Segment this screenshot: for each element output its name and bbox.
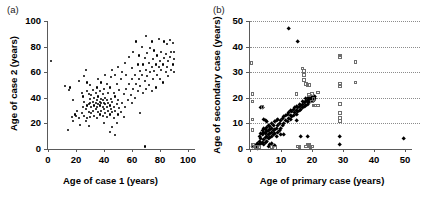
data-point	[75, 115, 77, 117]
data-point	[121, 102, 123, 104]
data-point	[86, 81, 88, 83]
y-tick	[44, 123, 47, 124]
x-tick-label: 0	[33, 155, 63, 165]
data-point	[152, 78, 154, 80]
data-point	[116, 122, 118, 124]
data-point	[106, 106, 108, 108]
x-tick-label: 40	[359, 155, 389, 165]
data-point	[354, 60, 358, 64]
y-tick-label: 40	[214, 42, 243, 52]
y-tick	[246, 47, 249, 48]
x-tick	[250, 149, 251, 152]
data-point	[137, 63, 139, 65]
data-point	[124, 106, 126, 108]
data-point	[159, 60, 161, 62]
panel-a-x-axis-line	[47, 149, 195, 150]
data-point	[120, 78, 122, 80]
data-point	[109, 86, 111, 88]
y-tick-label: 50	[214, 16, 243, 26]
data-point	[89, 102, 91, 104]
data-point	[261, 105, 265, 109]
data-point	[114, 74, 116, 76]
data-point	[82, 95, 84, 97]
data-point	[305, 134, 310, 139]
data-point	[169, 56, 171, 58]
y-tick	[246, 72, 249, 73]
data-point	[109, 104, 111, 106]
data-point	[135, 40, 137, 42]
data-point	[338, 102, 342, 106]
data-point	[160, 51, 162, 53]
y-tick-label: 20	[12, 118, 41, 128]
data-point	[159, 78, 161, 80]
data-point	[132, 88, 134, 90]
data-point	[95, 108, 97, 110]
data-point	[116, 103, 118, 105]
data-point	[81, 92, 83, 94]
panel-a: (a) Age of case 2 (years) 020406080100 0…	[0, 0, 205, 206]
panel-a-plot-area	[48, 21, 188, 149]
x-tick	[48, 149, 49, 152]
data-point	[109, 113, 111, 115]
data-point	[89, 116, 91, 118]
data-point	[338, 84, 342, 88]
data-point	[165, 71, 167, 73]
data-point	[85, 69, 87, 71]
y-tick-label: 20	[214, 93, 243, 103]
data-point	[149, 71, 151, 73]
data-point	[146, 75, 148, 77]
data-point	[69, 86, 71, 88]
data-point	[337, 143, 342, 148]
data-point	[148, 62, 150, 64]
data-point	[135, 83, 137, 85]
x-tick	[312, 149, 313, 152]
data-point	[125, 74, 127, 76]
data-point	[109, 131, 111, 133]
data-point	[316, 104, 320, 108]
data-point	[81, 112, 83, 114]
x-tick	[405, 149, 406, 152]
data-point	[82, 106, 84, 108]
data-point	[71, 116, 73, 118]
data-point	[354, 81, 358, 85]
y-tick	[44, 72, 47, 73]
data-point	[102, 93, 104, 95]
data-point	[99, 90, 101, 92]
data-point	[89, 84, 91, 86]
y-tick-label: 40	[12, 93, 41, 103]
data-point	[155, 63, 157, 65]
data-point	[103, 88, 105, 90]
data-point	[93, 115, 95, 117]
data-point	[121, 71, 123, 73]
data-point	[144, 80, 146, 82]
data-point	[134, 74, 136, 76]
y-tick-label: 100	[12, 16, 41, 26]
data-point	[131, 78, 133, 80]
x-tick	[76, 149, 77, 152]
x-tick-label: 20	[61, 155, 91, 165]
data-point	[132, 51, 134, 53]
data-point	[83, 101, 85, 103]
x-tick-label: 30	[328, 155, 358, 165]
data-point	[128, 56, 130, 58]
data-point	[131, 102, 133, 104]
data-point	[86, 117, 88, 119]
data-point	[138, 78, 140, 80]
data-point	[123, 93, 125, 95]
data-point	[110, 76, 112, 78]
panel-b-y-axis-title: Age of secondary case (years)	[212, 10, 222, 160]
data-point	[93, 97, 95, 99]
data-point	[155, 86, 157, 88]
data-point	[142, 92, 144, 94]
data-point	[162, 63, 164, 65]
data-point	[306, 143, 310, 147]
x-tick-label: 40	[89, 155, 119, 165]
data-point	[100, 81, 102, 83]
data-point	[173, 71, 175, 73]
data-point	[72, 120, 74, 122]
data-point	[153, 49, 155, 51]
data-point	[148, 84, 150, 86]
data-point	[130, 94, 132, 96]
data-point	[145, 88, 147, 90]
data-point	[123, 116, 125, 118]
